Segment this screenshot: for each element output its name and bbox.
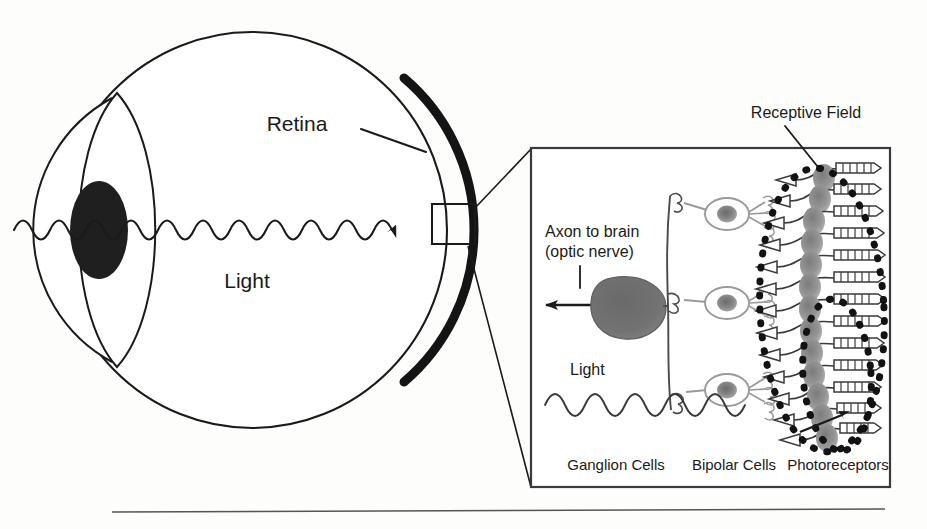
column-label-photoreceptors: Photoreceptors [787,456,889,473]
ganglion-cell-soma [591,277,666,339]
inset-panel-group: Receptive Field Axon to brain (optic ner… [531,104,891,487]
axon-label-line1: Axon to brain [545,223,639,240]
eye-light-label: Light [224,269,270,292]
column-label-ganglion: Ganglion Cells [567,456,665,473]
inset-light-label: Light [570,361,605,378]
receptive-field-label: Receptive Field [751,104,861,121]
figure-root: Retina Light Receptive Field Axon to bra… [0,0,927,529]
column-label-bipolar: Bipolar Cells [692,456,776,473]
axon-label-line2: (optic nerve) [545,243,634,260]
retina-label: Retina [267,112,328,135]
pupil-ellipse [70,181,128,279]
retina-diagram: Retina Light Receptive Field Axon to bra… [0,0,927,529]
